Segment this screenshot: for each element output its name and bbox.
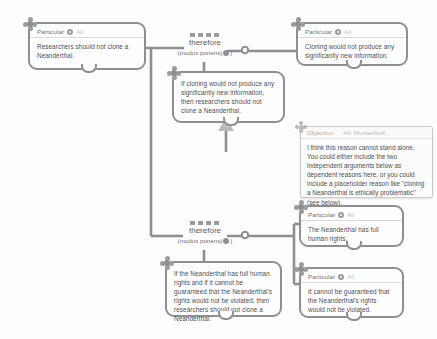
inference-bar-icon [190, 33, 220, 37]
claim-scope-label: All [344, 28, 351, 35]
node-bottom-connector[interactable] [346, 241, 362, 250]
claim-scope-label: All [347, 211, 354, 218]
gear-icon[interactable] [335, 29, 341, 35]
claim-node-conclusion[interactable]: Particular All Researchers should not cl… [28, 22, 146, 70]
gear-icon[interactable] [67, 29, 73, 35]
inference-label: therefore [172, 38, 238, 48]
gear-icon[interactable] [338, 274, 344, 280]
note-text[interactable]: I think this reason cannot stand alone. … [301, 139, 432, 212]
node-bottom-connector[interactable] [218, 311, 234, 320]
claim-node-reason-guarantee[interactable]: Particular All It cannot be guaranteed t… [299, 267, 404, 318]
node-drag-handle[interactable] [160, 256, 174, 270]
node-drag-handle[interactable] [294, 200, 308, 214]
note-drag-handle[interactable] [295, 121, 307, 133]
node-header[interactable]: Particular All [30, 24, 144, 38]
claim-kind-label: Particular [37, 28, 64, 35]
node-drag-handle[interactable] [294, 262, 308, 276]
node-header[interactable]: Particular All [298, 24, 406, 38]
claim-scope-label: All [76, 28, 83, 35]
inference-rule-text: (modus ponens) [178, 49, 223, 56]
claim-text[interactable]: Researchers should not clone a Neanderth… [30, 38, 144, 65]
gear-icon[interactable] [338, 212, 344, 218]
claim-node-reason-top[interactable]: Particular All Cloning would not produce… [296, 22, 408, 66]
objection-note[interactable]: Objection All: Michaelkoff... I think th… [300, 126, 433, 198]
node-drag-handle[interactable] [23, 17, 37, 31]
node-drag-handle[interactable] [167, 66, 181, 80]
claim-kind-label: Particular [308, 273, 335, 280]
inference-bar-icon [190, 221, 220, 225]
claim-node-reason-rights[interactable]: Particular All The Neanderthal has full … [299, 205, 404, 247]
inference-node-bottom[interactable]: therefore (modus ponens)) [172, 221, 238, 245]
node-header[interactable]: Particular All [301, 207, 402, 221]
note-kind-label: Objection [307, 130, 333, 136]
note-author-label: All: Michaelkoff... [343, 130, 390, 136]
argument-map-canvas[interactable]: Particular All Researchers should not cl… [0, 0, 437, 339]
gear-icon[interactable] [223, 50, 229, 56]
claim-kind-label: Particular [308, 211, 335, 218]
note-header[interactable]: Objection All: Michaelkoff... [301, 127, 432, 139]
inference-rule-text: (modus ponens) [178, 237, 223, 244]
claim-scope-label: All [347, 273, 354, 280]
inference-rule[interactable]: (modus ponens)) [172, 48, 238, 57]
inference-label: therefore [172, 226, 238, 236]
node-header[interactable]: Particular All [301, 269, 402, 283]
claim-kind-label: Particular [305, 28, 332, 35]
inference-rule[interactable]: (modus ponens)) [172, 236, 238, 245]
claim-node-conditional-top[interactable]: If cloning would not produce any signifi… [172, 71, 285, 123]
node-bottom-connector[interactable] [346, 312, 362, 321]
inference-node-top[interactable]: therefore (modus ponens)) [172, 33, 238, 57]
gear-icon[interactable] [223, 238, 229, 244]
claim-text[interactable]: If cloning would not produce any signifi… [174, 73, 283, 120]
claim-node-conditional-bottom[interactable]: If the Neanderthal has full human rights… [165, 261, 282, 317]
node-drag-handle[interactable] [291, 17, 305, 31]
node-bottom-connector[interactable] [223, 117, 239, 126]
